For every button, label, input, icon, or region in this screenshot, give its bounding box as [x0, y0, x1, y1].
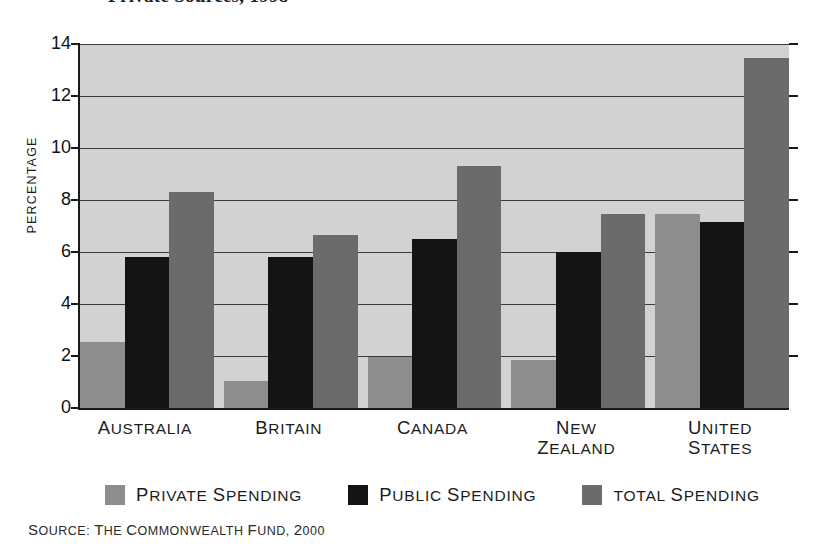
y-axis-tick-label: 0	[61, 397, 71, 418]
bar	[80, 342, 125, 408]
bar	[268, 257, 313, 408]
legend-swatch-public-icon	[348, 485, 368, 505]
x-axis-label: UNITEDSTATES	[653, 418, 787, 458]
bar	[169, 192, 214, 408]
y-axis-tick-label: 4	[61, 293, 71, 314]
bar	[601, 214, 646, 408]
bar	[457, 166, 502, 408]
y-axis-tick-mark	[71, 407, 80, 409]
y-axis-tick-mark-right	[789, 355, 798, 357]
y-axis-tick-label: 10	[51, 137, 71, 158]
legend-label: PRIVATE SPENDING	[136, 484, 302, 506]
legend-item[interactable]: TOTAL SPENDING	[582, 484, 759, 506]
bar-group	[80, 44, 214, 408]
plot-area: 02468101214	[78, 44, 789, 410]
bar-group	[368, 44, 502, 408]
legend-item[interactable]: PUBLIC SPENDING	[348, 484, 536, 506]
y-axis-tick-mark	[71, 199, 80, 201]
y-axis-tick-mark	[71, 303, 80, 305]
bar-chart: PERCENTAGE 02468101214 AUSTRALIABRITAINC…	[0, 0, 822, 544]
bar	[655, 214, 700, 408]
legend-item[interactable]: PRIVATE SPENDING	[105, 484, 302, 506]
y-axis-tick-mark	[71, 43, 80, 45]
bar	[511, 360, 556, 408]
bar	[744, 58, 789, 408]
bar	[368, 357, 413, 408]
x-axis-label: NEWZEALAND	[509, 418, 643, 458]
source-note: SOURCE: THE COMMONWEALTH FUND, 2000	[28, 521, 325, 538]
legend-label: PUBLIC SPENDING	[379, 484, 536, 506]
bar	[700, 222, 745, 408]
y-axis-tick-mark-right	[789, 303, 798, 305]
y-axis-tick-mark	[71, 251, 80, 253]
y-axis-tick-mark-right	[789, 43, 798, 45]
bar	[556, 252, 601, 408]
y-axis-tick-label: 14	[51, 33, 71, 54]
y-axis-tick-label: 12	[51, 85, 71, 106]
x-axis-label: BRITAIN	[222, 418, 356, 438]
bar-group	[511, 44, 645, 408]
y-axis-title: PERCENTAGE	[25, 85, 39, 285]
y-axis-tick-mark	[71, 355, 80, 357]
y-axis-tick-label: 2	[61, 345, 71, 366]
y-axis-tick-mark-right	[789, 147, 798, 149]
y-axis-tick-mark	[71, 95, 80, 97]
x-axis-labels: AUSTRALIABRITAINCANADANEWZEALANDUNITEDST…	[78, 418, 787, 478]
y-axis-tick-mark	[71, 147, 80, 149]
bar-group	[224, 44, 358, 408]
bar	[224, 381, 269, 408]
y-axis-tick-label: 8	[61, 189, 71, 210]
y-axis-tick-mark-right	[789, 199, 798, 201]
y-axis-tick-mark-right	[789, 95, 798, 97]
y-axis-tick-label: 6	[61, 241, 71, 262]
legend-swatch-private-icon	[105, 485, 125, 505]
legend-label: TOTAL SPENDING	[613, 484, 759, 506]
bar	[412, 239, 457, 408]
chart-legend: PRIVATE SPENDINGPUBLIC SPENDINGTOTAL SPE…	[78, 484, 787, 506]
bars-layer	[80, 44, 789, 408]
legend-swatch-total-icon	[582, 485, 602, 505]
bar	[313, 235, 358, 408]
bar	[125, 257, 170, 408]
y-axis-tick-mark-right	[789, 251, 798, 253]
x-axis-label: AUSTRALIA	[78, 418, 212, 438]
bar-group	[655, 44, 789, 408]
x-axis-label: CANADA	[366, 418, 500, 438]
